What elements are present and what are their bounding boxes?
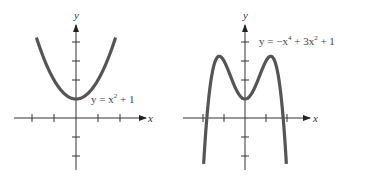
x-axis-label: x: [147, 112, 153, 124]
y-axis-label: y: [73, 9, 79, 21]
quartic-graph: x y y = −x4 + 3x2 + 1: [183, 9, 335, 170]
parabola-graph: x y y = x2 + 1: [14, 9, 153, 170]
figure-canvas: x y y = x2 + 1 x y y = −x4 + 3x2 + 1: [0, 0, 365, 182]
equation-label: y = x2 + 1: [91, 92, 134, 105]
x-axis-label: x: [312, 112, 318, 124]
y-axis-label: y: [242, 9, 248, 21]
equation-label: y = −x4 + 3x2 + 1: [259, 34, 335, 47]
